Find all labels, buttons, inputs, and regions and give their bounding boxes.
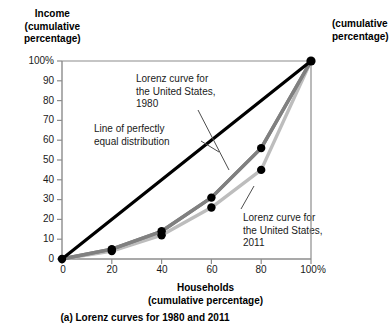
leader-line-lorenz-1980 (198, 110, 229, 170)
marker-origin (58, 255, 66, 263)
leader-line-lorenz-2011 (241, 186, 254, 209)
marker-1980-60 (207, 193, 215, 201)
y-axis-ticks (57, 61, 62, 259)
figure-caption: (a) Lorenz curves for 1980 and 2011 (0, 312, 290, 323)
marker-top-right (306, 56, 315, 65)
marker-1980-80 (257, 144, 265, 152)
marker-1980-20 (108, 245, 116, 253)
marker-1980-40 (157, 227, 165, 235)
line-of-perfect-equality (62, 61, 311, 259)
x-axis-ticks (62, 259, 311, 264)
marker-2011-60 (207, 203, 215, 211)
marker-2011-80 (257, 166, 265, 174)
